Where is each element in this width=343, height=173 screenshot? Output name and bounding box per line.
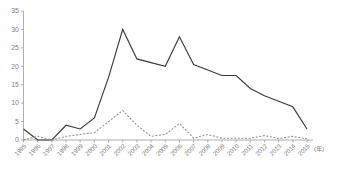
y-axis-group: 05101520253035: [11, 7, 23, 143]
x-tick-label: 2009: [211, 142, 226, 157]
x-tick-label: 2008: [197, 142, 212, 157]
x-tick-label: 2006: [169, 142, 184, 157]
x-tick-label: 2005: [154, 142, 169, 157]
x-tick-label: 2000: [84, 142, 99, 157]
x-tick-label: 2007: [183, 142, 198, 157]
chart-plot-area: 05101520253035 1995199619971998199920002…: [0, 0, 343, 173]
line-chart: 05101520253035 1995199619971998199920002…: [0, 0, 343, 173]
x-axis-ticks: 1995199619971998199920002001200220032004…: [13, 140, 312, 157]
x-tick-label: 2013: [268, 142, 283, 157]
x-tick-label: 1999: [69, 142, 84, 157]
x-tick-label: 2004: [140, 142, 155, 157]
series-group: [24, 29, 308, 140]
x-axis-unit-label: (年): [314, 145, 324, 153]
x-tick-label: 2012: [254, 142, 269, 157]
y-tick-label: 30: [11, 26, 19, 33]
series-line-solid: [24, 29, 308, 140]
x-tick-label: 2011: [240, 142, 255, 157]
x-tick-label: 1996: [27, 142, 42, 157]
x-tick-label: 2014: [282, 142, 297, 157]
x-tick-label: 1997: [41, 142, 56, 157]
x-tick-label: 2015: [296, 142, 311, 157]
y-axis-ticks: 05101520253035: [11, 7, 23, 143]
y-tick-label: 5: [15, 118, 19, 125]
y-tick-label: 10: [11, 99, 19, 106]
x-tick-label: 2010: [225, 142, 240, 157]
x-tick-label: 1998: [55, 142, 70, 157]
x-axis-group: 1995199619971998199920002001200220032004…: [13, 140, 324, 157]
x-tick-label: 2003: [126, 142, 141, 157]
x-tick-label: 2002: [112, 142, 127, 157]
y-tick-label: 35: [11, 7, 19, 14]
x-tick-label: 1995: [13, 142, 28, 157]
y-tick-label: 20: [11, 63, 19, 70]
y-tick-label: 0: [15, 136, 19, 143]
y-tick-label: 15: [11, 81, 19, 88]
x-tick-label: 2001: [98, 142, 113, 157]
y-tick-label: 25: [11, 44, 19, 51]
